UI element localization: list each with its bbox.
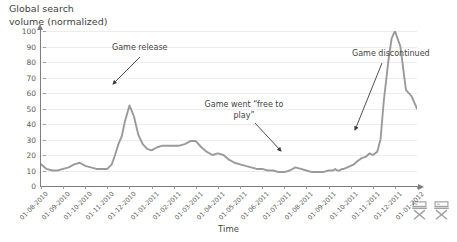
x-axis-tick-mark	[174, 186, 175, 189]
y-axis-tick-label: 60	[6, 89, 36, 98]
x-axis-tick-mark	[329, 186, 330, 189]
y-axis-tick-label: 50	[6, 104, 36, 113]
watermark	[410, 198, 454, 224]
y-axis-tick-label: 100	[6, 27, 36, 36]
y-axis-tick-label: 30	[6, 135, 36, 144]
y-axis-tick-label: 20	[6, 151, 36, 160]
x-axis-tick-mark	[373, 186, 374, 189]
x-axis-tick-mark	[306, 186, 307, 189]
chair-icon	[410, 200, 429, 222]
annotation-game-discontinued: Game discontinued	[352, 49, 452, 60]
x-axis-tick-mark	[152, 186, 153, 189]
y-axis-tick-label: 80	[6, 58, 36, 67]
y-axis-tick-label: 0	[6, 182, 36, 191]
x-axis-tick-mark	[395, 186, 396, 189]
annotation-free-to-play: Game went “free to play”	[196, 100, 292, 121]
x-axis-tick-mark	[218, 186, 219, 189]
x-axis-tick-mark	[129, 186, 130, 189]
y-axis-ticks: 0102030405060708090100	[3, 31, 36, 186]
annotation-game-release: Game release	[112, 43, 202, 54]
y-axis-tick-label: 70	[6, 73, 36, 82]
y-axis-tick-label: 10	[6, 166, 36, 175]
x-axis-tick-mark	[85, 186, 86, 189]
x-axis-tick-mark	[351, 186, 352, 189]
chart-container: Global search volume (normalized) 010203…	[0, 0, 457, 242]
y-axis-tick-label: 40	[6, 120, 36, 129]
x-axis-tick-labels: 01-08-201001-09-201001-10-201001-11-2010…	[41, 190, 417, 228]
x-axis-arrow-icon	[418, 184, 424, 190]
x-axis-tick-mark	[262, 186, 263, 189]
x-axis-tick-mark	[284, 186, 285, 189]
x-axis-tick-mark	[41, 186, 42, 189]
y-axis-tick-label: 90	[6, 42, 36, 51]
x-axis-tick-mark	[417, 186, 418, 189]
x-axis-tick-mark	[196, 186, 197, 189]
x-axis-tick-mark	[240, 186, 241, 189]
x-axis-tick-mark	[107, 186, 108, 189]
x-axis-tick-mark	[63, 186, 64, 189]
x-axis-title: Time	[0, 224, 457, 234]
chair-icon	[432, 200, 451, 222]
